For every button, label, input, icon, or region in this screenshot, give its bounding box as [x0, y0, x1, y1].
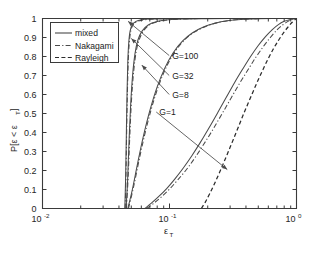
x-ticklabel-exp-0: -2 — [44, 212, 50, 219]
y-axis-label-close: ] — [9, 108, 19, 111]
x-ticklabel-base-2: 10 — [285, 214, 295, 224]
legend-label-rayleigh: Rayleigh — [75, 53, 109, 63]
annotation-g-8: G=8 — [172, 90, 189, 100]
x-ticklabel-exp-2: 0 — [298, 212, 302, 219]
y-ticklabel-1: 0.1 — [24, 185, 37, 195]
x-ticklabel-base-1: 10 — [158, 214, 168, 224]
y-ticklabel-3: 0.3 — [24, 147, 37, 157]
y-ticklabel-6: 0.6 — [24, 90, 37, 100]
annotation-g-100: G=100 — [172, 51, 198, 61]
y-ticklabel-4: 0.4 — [24, 128, 37, 138]
legend: mixed Nakagami Rayleigh — [51, 23, 119, 63]
y-ticklabel-2: 0.2 — [24, 166, 37, 176]
legend-label-nakagami: Nakagami — [75, 41, 114, 51]
x-ticklabel-base-0: 10 — [31, 214, 41, 224]
y-ticklabel-9: 0.9 — [24, 33, 37, 43]
y-ticklabel-10: 1 — [31, 14, 36, 24]
annotation-g-1: G=1 — [159, 107, 176, 117]
y-axis-label-text: P[ε < ε — [9, 125, 19, 152]
y-ticklabel-7: 0.7 — [24, 71, 37, 81]
legend-label-mixed: mixed — [75, 28, 98, 38]
y-ticklabel-0: 0 — [31, 204, 36, 214]
x-axis-label-text: ε — [164, 226, 168, 236]
annotation-g-32: G=32 — [172, 71, 193, 81]
cdf-plot: 00.10.20.30.40.50.60.70.80.9110-210-1100… — [0, 0, 313, 256]
y-ticklabel-5: 0.5 — [24, 109, 37, 119]
x-ticklabel-exp-1: -1 — [171, 212, 177, 219]
chart-figure: 00.10.20.30.40.50.60.70.80.9110-210-1100… — [0, 0, 313, 256]
y-ticklabel-8: 0.8 — [24, 52, 37, 62]
x-axis-label-sub: T — [170, 231, 174, 238]
